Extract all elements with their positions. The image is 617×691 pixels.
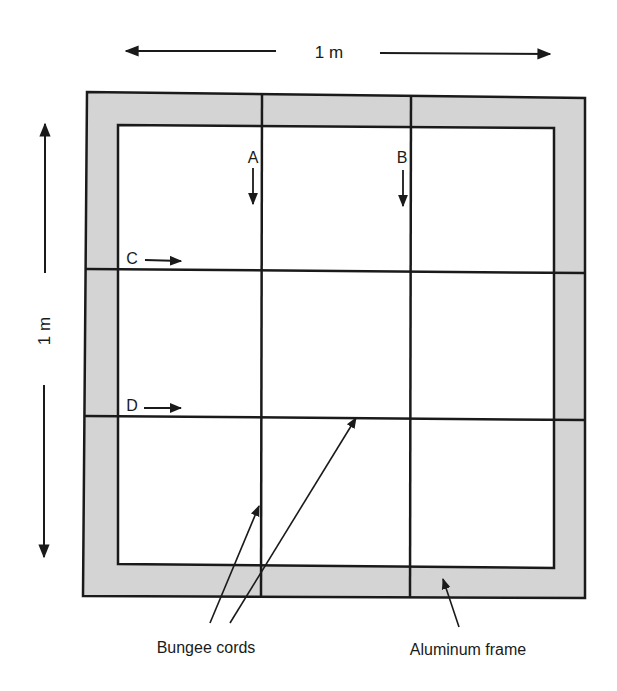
cord-C — [86, 269, 585, 273]
label-B: B — [397, 149, 408, 166]
aluminum-frame — [83, 92, 585, 598]
height-dimension: 1 m — [35, 124, 54, 557]
cord-label-C: C — [126, 250, 181, 267]
arrow-right-icon — [145, 260, 181, 261]
cord-label-D: D — [126, 397, 181, 414]
width-dimension: 1 m — [126, 43, 550, 62]
bungee-cord-grid — [85, 93, 585, 597]
callout-bungee-cords: Bungee cords — [157, 418, 356, 656]
cord-label-A: A — [248, 149, 259, 204]
bungee-cords-label: Bungee cords — [157, 639, 256, 656]
label-A: A — [248, 149, 259, 166]
cord-A — [261, 93, 262, 596]
aluminum-frame-label: Aluminum frame — [410, 641, 527, 658]
cord-B — [410, 95, 411, 597]
label-D: D — [126, 397, 138, 414]
diagram-canvas: 1 m 1 m A B C D Bungee cords Alu — [0, 0, 617, 691]
cord-D — [85, 416, 585, 420]
cord-label-B: B — [397, 149, 408, 206]
width-arrow-right-icon — [380, 53, 550, 54]
height-label: 1 m — [35, 317, 54, 345]
label-C: C — [126, 250, 138, 267]
width-label: 1 m — [315, 43, 343, 62]
